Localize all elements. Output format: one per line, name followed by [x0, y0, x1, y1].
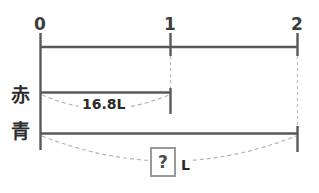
measure-label-red: 16.8L	[79, 96, 128, 112]
row-label-blue: 青	[11, 122, 30, 141]
tick-label-1: 1	[158, 16, 182, 33]
unknown-unit-label: L	[179, 158, 192, 172]
unknown-answer-value: ?	[158, 154, 168, 171]
tick-label-0: 0	[28, 16, 52, 33]
row-label-red: 赤	[11, 86, 30, 105]
unknown-answer-box[interactable]: ?	[150, 147, 176, 177]
number-line-diagram: 0 1 2 赤 青 16.8L ? L	[0, 0, 319, 193]
tick-label-2: 2	[285, 16, 309, 33]
